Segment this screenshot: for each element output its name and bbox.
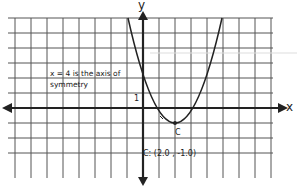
y-axis-label: y <box>138 0 145 12</box>
x-axis-left-arrow-icon <box>2 103 12 113</box>
y-axis-top-arrow-icon <box>138 11 148 20</box>
vertex-point <box>173 121 177 125</box>
y-axis-bottom-arrow-icon <box>138 177 148 186</box>
grid <box>8 18 273 178</box>
x-axis-label: x <box>286 100 293 114</box>
coordinate-graph <box>0 0 297 190</box>
y-intercept-tick-label: 1 <box>134 94 139 103</box>
vertex-label: C <box>175 128 181 137</box>
axis-of-symmetry-note: x = 4 is the axis of symmetry <box>50 68 160 90</box>
vertex-coordinates: C: (2.0 , -1.0) <box>143 149 196 158</box>
